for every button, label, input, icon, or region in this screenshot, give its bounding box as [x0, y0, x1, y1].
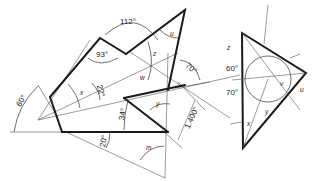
vertical-thin [165, 53, 168, 178]
arc-60 [14, 86, 38, 132]
label-u: u [170, 30, 174, 37]
label-u-right: u [300, 86, 304, 93]
leader-right [290, 54, 300, 58]
label-x-right: x [246, 120, 251, 127]
left-figure: 112° 93° 60° 22° 34° 20° 70° 1.400" u z … [10, 10, 240, 178]
label-dimension: 1.400" [183, 106, 201, 131]
label-x: x [79, 89, 84, 96]
label-w: w [140, 74, 146, 81]
label-m: m [146, 144, 152, 151]
label-22: 22° [95, 84, 107, 98]
arc-m [140, 146, 164, 160]
edge-d [124, 98, 168, 132]
label-z: z [152, 50, 157, 57]
edge-b [50, 38, 126, 97]
label-v-right: v [280, 80, 284, 87]
arc-u [160, 30, 178, 38]
bisector-top [242, 33, 300, 110]
leader-x [230, 122, 242, 124]
label-34: 34° [117, 107, 128, 120]
label-70: 70° [184, 61, 199, 76]
leader-top [264, 5, 268, 44]
label-70-right: 70° [226, 88, 238, 97]
label-93: 93° [96, 50, 108, 59]
right-figure: z 60° 70° u v y x [226, 5, 306, 148]
arc-z [148, 42, 152, 80]
label-y-right: y [264, 108, 269, 116]
label-60: 60° [14, 93, 28, 108]
arc-x [68, 84, 80, 108]
label-z-right: z [226, 44, 231, 51]
geometry-diagram: 112° 93° 60° 22° 34° 20° 70° 1.400" u z … [0, 0, 321, 181]
diag-line [130, 52, 230, 118]
edge-a [50, 97, 62, 132]
edge-e [124, 85, 185, 98]
label-y: y [155, 100, 160, 108]
ray-lower [66, 132, 165, 178]
label-60-right: 60° [226, 64, 238, 73]
label-112: 112° [120, 17, 136, 26]
right-triangle [242, 33, 306, 148]
